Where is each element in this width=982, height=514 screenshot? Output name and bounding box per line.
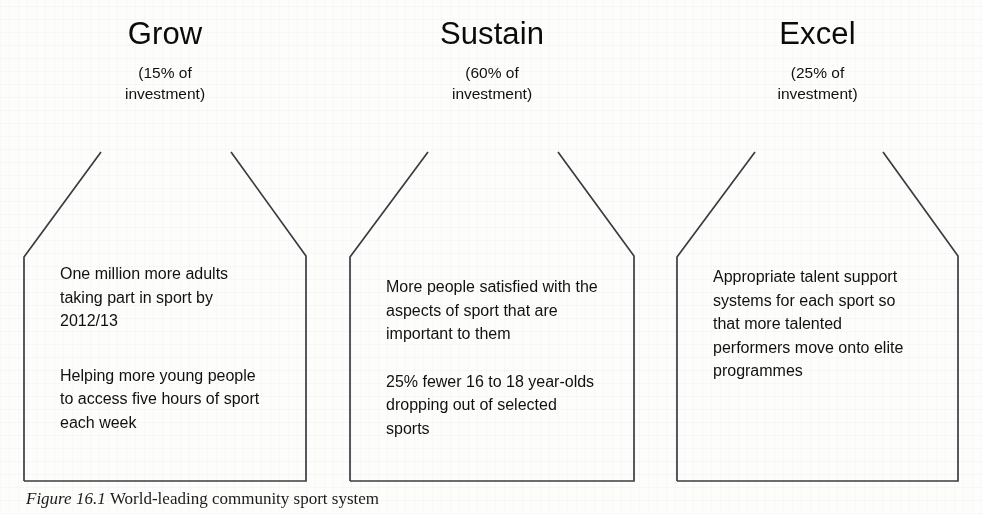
pillar-excel-paragraph-1: Appropriate talent support systems for e… — [713, 265, 919, 383]
figure-caption-label: Figure 16.1 — [26, 489, 106, 508]
figure-caption-text: World-leading community sport system — [110, 489, 379, 508]
figure-caption: Figure 16.1 World-leading community spor… — [26, 488, 956, 510]
pillar-grow-title: Grow — [24, 16, 306, 52]
pillar-excel-subtitle-line1: (25% of — [677, 62, 958, 83]
pillar-excel-title: Excel — [677, 16, 958, 52]
figure-page: Grow (15% of investment) One million mor… — [0, 0, 982, 514]
pillar-sustain-paragraph-1: More people satisfied with the aspects o… — [386, 275, 600, 346]
pillar-grow-subtitle-line1: (15% of — [24, 62, 306, 83]
pillar-sustain-subtitle: (60% of investment) — [350, 62, 634, 104]
pillar-sustain-body: More people satisfied with the aspects o… — [386, 275, 600, 440]
pillar-sustain-paragraph-2: 25% fewer 16 to 18 year-olds dropping ou… — [386, 370, 600, 441]
pillar-grow-subtitle-line2: investment) — [24, 83, 306, 104]
pillar-excel-subtitle-line2: investment) — [677, 83, 958, 104]
pillar-excel-header: Excel (25% of investment) — [677, 16, 958, 104]
pillar-sustain-title: Sustain — [350, 16, 634, 52]
pillar-sustain-header: Sustain (60% of investment) — [350, 16, 634, 104]
pillar-excel-body: Appropriate talent support systems for e… — [713, 265, 919, 383]
pillar-grow-paragraph-1: One million more adults taking part in s… — [60, 262, 272, 333]
pillar-grow-subtitle: (15% of investment) — [24, 62, 306, 104]
pillar-grow-header: Grow (15% of investment) — [24, 16, 306, 104]
pillar-grow-paragraph-2: Helping more young people to access five… — [60, 364, 272, 435]
pillar-excel-subtitle: (25% of investment) — [677, 62, 958, 104]
pillar-grow-body: One million more adults taking part in s… — [60, 262, 272, 434]
pillar-sustain-subtitle-line1: (60% of — [350, 62, 634, 83]
pillar-sustain-subtitle-line2: investment) — [350, 83, 634, 104]
